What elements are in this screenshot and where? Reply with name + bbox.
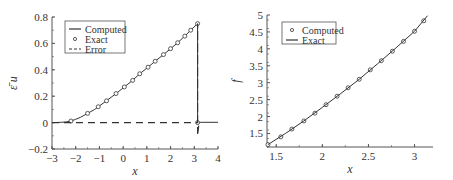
y-tick-label: 2 [258, 111, 264, 123]
x-tick-label: −1 [94, 152, 106, 164]
y-tick-label: −0.2 [28, 143, 48, 155]
data-marker [169, 47, 173, 51]
left-chart: −0.200.20.40.60.8−3−2−101234xε̄ uCompute… [0, 0, 230, 180]
x-tick-label: −2 [70, 152, 82, 164]
y-tick-label: 1.5 [249, 127, 263, 139]
x-tick-label: 0 [120, 152, 126, 164]
data-marker [131, 78, 135, 82]
legend-label: Exact [302, 35, 325, 46]
y-tick-label: 0.4 [34, 64, 48, 76]
data-marker [114, 92, 118, 96]
data-marker [189, 28, 193, 32]
data-marker [138, 72, 142, 76]
y-tick-label: 3.5 [249, 60, 263, 72]
x-tick-label: 4 [215, 152, 221, 164]
right-chart: 1.522.533.544.551.522.53xfComputedExact [230, 0, 453, 180]
data-marker [86, 111, 90, 115]
x-tick-label: 2.5 [362, 150, 376, 162]
y-tick-label: 0.6 [34, 37, 48, 49]
data-marker [176, 41, 180, 45]
x-tick-label: −3 [46, 152, 58, 164]
y-tick-label: 2.5 [249, 94, 263, 106]
x-tick-label: 2 [320, 150, 326, 162]
data-marker [153, 59, 157, 63]
y-tick-label: 3 [258, 77, 264, 89]
x-tick-label: 3 [412, 150, 418, 162]
y-tick-label: 0.8 [34, 11, 48, 23]
y-tick-label: 0 [43, 117, 49, 129]
x-tick-label: 1.5 [269, 150, 283, 162]
figure: −0.200.20.40.60.8−3−2−101234xε̄ uCompute… [0, 0, 453, 180]
x-axis-label: x [131, 164, 138, 178]
x-axis-label: x [346, 162, 353, 176]
y-tick-label: 4 [258, 43, 264, 55]
legend-marker-circle [290, 28, 293, 31]
legend-label: Error [85, 44, 107, 55]
x-tick-label: 1 [144, 152, 150, 164]
y-axis-label: f [230, 78, 243, 83]
legend-marker-circle [73, 37, 76, 40]
data-marker [183, 34, 187, 38]
data-marker [105, 99, 109, 103]
data-marker [96, 105, 100, 109]
data-marker [146, 65, 150, 69]
y-axis-label: ε̄ u [6, 76, 20, 90]
data-marker [161, 53, 165, 57]
y-tick-label: 4.5 [249, 26, 263, 38]
x-tick-label: 2 [168, 152, 174, 164]
y-tick-label: 0.2 [34, 90, 48, 102]
x-tick-label: 3 [192, 152, 198, 164]
y-tick-label: 5 [258, 9, 264, 21]
data-marker [122, 85, 126, 89]
